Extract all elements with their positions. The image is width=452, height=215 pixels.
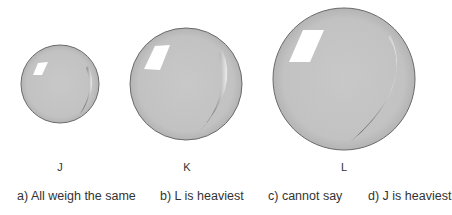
sphere-label-j: J bbox=[57, 161, 63, 173]
option-b[interactable]: b) L is heaviest bbox=[160, 189, 244, 203]
sphere-j bbox=[21, 45, 99, 123]
sphere-label-k: K bbox=[183, 161, 190, 173]
option-a[interactable]: a) All weigh the same bbox=[17, 189, 136, 203]
spheres-figure bbox=[0, 0, 452, 215]
option-d[interactable]: d) J is heaviest bbox=[368, 189, 451, 203]
sphere-label-l: L bbox=[341, 161, 347, 173]
sphere-k bbox=[130, 28, 242, 140]
sphere-l bbox=[273, 8, 415, 150]
option-c[interactable]: c) cannot say bbox=[268, 189, 342, 203]
